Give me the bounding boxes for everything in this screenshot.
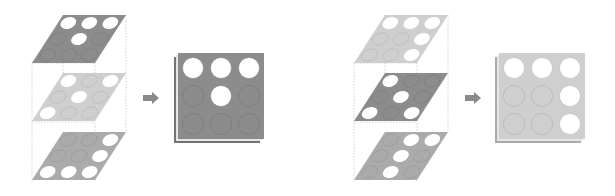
- hole-closed: [239, 86, 260, 107]
- hole-closed: [532, 114, 553, 135]
- hole-closed: [183, 86, 204, 107]
- layer-top: [32, 15, 126, 64]
- hole-closed: [211, 114, 232, 135]
- right-arrow-icon: [143, 92, 159, 104]
- hole-open: [532, 58, 553, 79]
- hole-open: [211, 58, 232, 79]
- layer-bottom: [32, 132, 126, 181]
- layer-top: [354, 15, 448, 64]
- hole-closed: [504, 114, 525, 135]
- layer-stacking-diagram: [0, 0, 615, 196]
- hole-closed: [532, 86, 553, 107]
- hole-closed: [183, 114, 204, 135]
- hole-open: [560, 114, 581, 135]
- hole-open: [504, 58, 525, 79]
- result-square: [495, 53, 585, 143]
- right-arrow-icon: [465, 92, 481, 104]
- hole-closed: [239, 114, 260, 135]
- hole-open: [239, 58, 260, 79]
- left-example-group: [32, 15, 264, 181]
- layer-middle: [32, 73, 126, 122]
- right-example-group: [354, 15, 585, 181]
- hole-open: [211, 86, 232, 107]
- result-square: [174, 53, 264, 143]
- hole-closed: [504, 86, 525, 107]
- hole-open: [560, 86, 581, 107]
- hole-open: [183, 58, 204, 79]
- layer-middle: [354, 73, 448, 122]
- layer-bottom: [354, 132, 448, 181]
- hole-open: [560, 58, 581, 79]
